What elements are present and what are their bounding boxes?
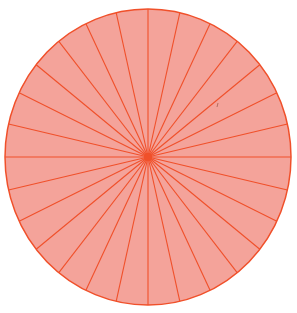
divided-circle-diagram — [0, 0, 297, 313]
center-point — [144, 153, 152, 161]
